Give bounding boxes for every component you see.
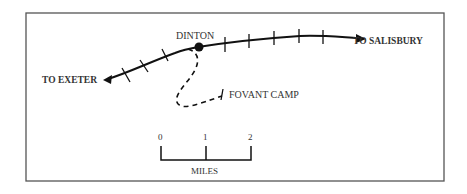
scale-tick-1: 1	[203, 132, 208, 142]
label-to-salisbury: TO SALISBURY	[353, 36, 423, 46]
branch-end-tick	[221, 89, 223, 100]
scale-tick-2: 2	[248, 132, 253, 142]
railway-line	[108, 36, 358, 79]
arrow-west-icon	[103, 75, 112, 84]
scale-bar	[161, 146, 251, 160]
scale-tick-0: 0	[158, 132, 163, 142]
label-fovant-camp: FOVANT CAMP	[229, 89, 299, 100]
branch-line-fovant	[177, 49, 222, 107]
label-to-exeter: TO EXETER	[42, 75, 97, 85]
scale-unit-label: MILES	[191, 166, 218, 176]
label-dinton: DINTON	[176, 30, 214, 41]
dinton-station-marker	[195, 43, 204, 52]
map-canvas: DINTON FOVANT CAMP TO EXETER TO SALISBUR…	[0, 0, 467, 194]
